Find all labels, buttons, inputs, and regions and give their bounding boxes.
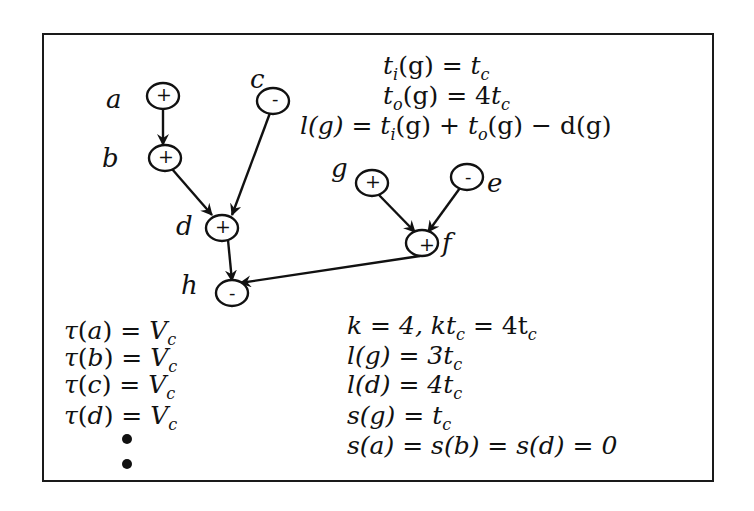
sign-h: - — [229, 284, 235, 303]
sign-g: + — [365, 172, 381, 191]
edge-d-h — [228, 240, 232, 281]
sign-f: + — [419, 235, 435, 254]
equation-k: k = 4, ktc = 4tc — [347, 313, 537, 338]
edge-f-h — [240, 256, 420, 283]
continuation-dot-1 — [122, 434, 132, 444]
sign-d: + — [215, 217, 231, 236]
label-e: e — [487, 170, 502, 196]
continuation-dot-2 — [122, 459, 132, 469]
equation-to: to(g) = 4tc — [383, 83, 510, 108]
label-h: h — [181, 272, 198, 298]
equation-s-abd: s(a) = s(b) = s(d) = 0 — [347, 433, 617, 458]
equation-ti: ti(g) = tc — [383, 53, 490, 78]
equation-tau-b: τ(b) = Vc — [64, 345, 177, 370]
label-f: f — [442, 230, 452, 256]
sign-a: + — [156, 85, 172, 104]
equation-lg: l(g) = ti(g) + to(g) − d(g) — [300, 113, 611, 138]
label-g: g — [331, 155, 348, 181]
equation-s-g: s(g) = tc — [347, 403, 451, 428]
label-c: c — [250, 66, 265, 92]
sign-b: + — [158, 147, 174, 166]
sign-e: - — [465, 168, 471, 187]
edge-g-f — [378, 194, 415, 232]
label-b: b — [102, 145, 119, 171]
equation-tau-c: τ(c) = Vc — [64, 372, 175, 397]
label-a: a — [106, 86, 122, 112]
equation-l-g: l(g) = 3tc — [347, 343, 462, 368]
label-d: d — [176, 213, 193, 239]
equation-tau-d: τ(d) = Vc — [64, 403, 177, 428]
edge-c-d — [232, 113, 270, 215]
sign-c: - — [272, 90, 278, 109]
equation-tau-a: τ(a) = Vc — [64, 318, 176, 343]
edge-e-f — [428, 188, 460, 232]
equation-l-d: l(d) = 4tc — [347, 372, 462, 397]
edge-b-d — [172, 169, 212, 215]
